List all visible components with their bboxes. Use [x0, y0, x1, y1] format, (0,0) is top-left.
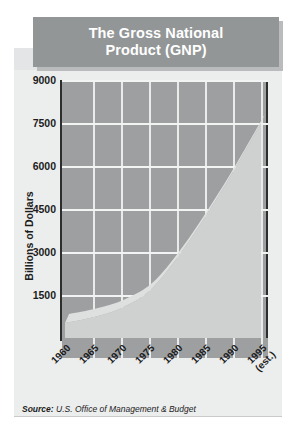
y-tick-label: 4500 — [12, 203, 56, 215]
footer-divider — [14, 416, 282, 417]
y-tick-label: 7500 — [12, 117, 56, 129]
y-tick-label: 1500 — [12, 289, 56, 301]
y-axis-tick-labels: Billions of Dollars 15003000450060007500… — [10, 80, 56, 338]
y-tick-label: 9000 — [12, 74, 56, 86]
source-label: Source: — [22, 404, 54, 414]
y-axis-title: Billions of Dollars — [23, 176, 35, 296]
chart-figure: The Gross National Product (GNP) Billion… — [0, 0, 297, 433]
y-tick-label: 6000 — [12, 160, 56, 172]
chart-title-line-1: The Gross National — [89, 25, 224, 42]
x-axis-tick-labels: 19601965197019751980198519901995(est.) — [62, 358, 268, 408]
gnp-area-svg — [62, 80, 268, 338]
plot-area — [62, 80, 268, 338]
gnp-area-fill — [65, 123, 261, 338]
chart-title: The Gross National Product (GNP) — [89, 25, 224, 59]
source-text: U.S. Office of Management & Budget — [54, 404, 196, 414]
source-note: Source: U.S. Office of Management & Budg… — [22, 404, 196, 414]
gnp-area-series — [62, 80, 268, 338]
chart-title-line-2: Product (GNP) — [89, 42, 224, 59]
title-banner: The Gross National Product (GNP) — [33, 17, 279, 67]
y-tick-label: 3000 — [12, 246, 56, 258]
